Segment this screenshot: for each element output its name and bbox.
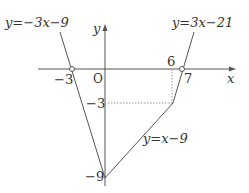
origin-label: O <box>93 73 103 85</box>
equation-right: y=3x−21 <box>172 16 233 29</box>
y-axis-arrow-icon <box>103 24 108 31</box>
tick-y-neg3: −3 <box>86 97 105 110</box>
tick-y-neg9: −9 <box>85 170 104 183</box>
tick-x-neg3: −3 <box>54 73 73 86</box>
equation-left: y=−3x−9 <box>5 16 69 29</box>
graph-figure: y=−3x−9 y=3x−21 y=x−9 y x O −3 6 7 −3 −9 <box>0 0 249 193</box>
equation-bottom: y=x−9 <box>143 132 188 145</box>
tick-x-6: 6 <box>167 55 175 68</box>
tick-x-7: 7 <box>184 72 192 85</box>
y-axis-label: y <box>93 22 100 35</box>
x-axis-label: x <box>227 72 234 85</box>
open-point-neg3 <box>70 67 75 72</box>
